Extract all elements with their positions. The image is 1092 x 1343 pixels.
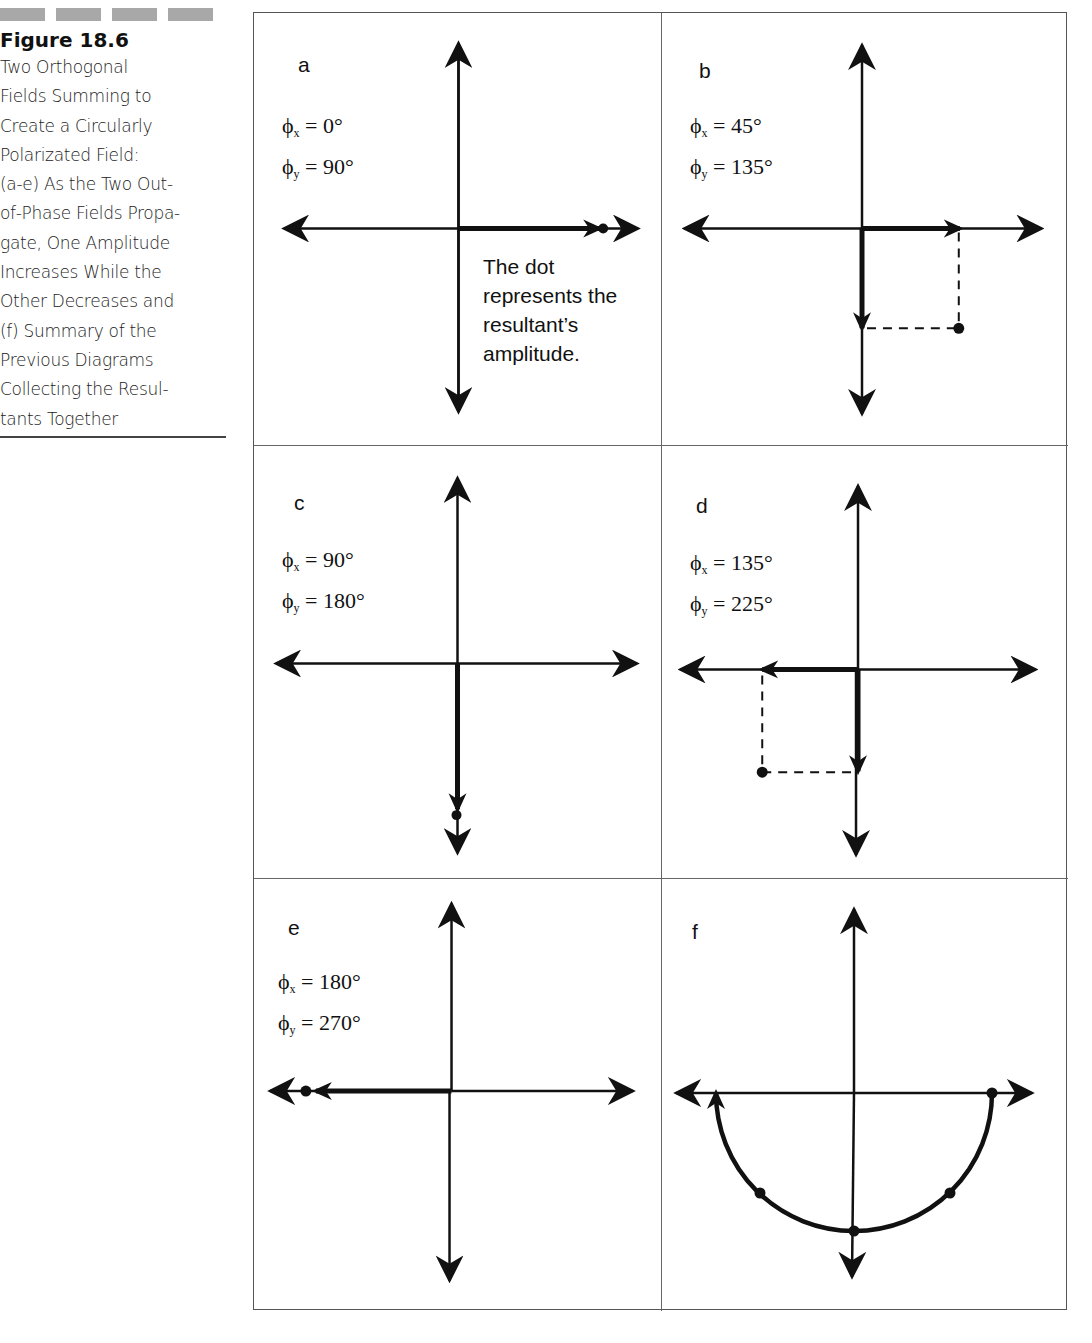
panel-label: e [288,916,300,940]
caption-decoration-bars [0,8,226,21]
caption-line: Fields Summing to [0,82,226,111]
phase-x: ϕx = 0° [282,109,354,150]
axes-diagram-b [662,13,1068,445]
axes-diagram-e [254,879,661,1311]
axes-diagram-a [254,13,661,445]
caption-line: Polarizated Field: [0,141,226,170]
caption-line: tants Together [0,405,226,434]
caption-line: Create a Circularly [0,112,226,141]
caption-line: Previous Diagrams [0,346,226,375]
dot-explanation-note: The dot represents the resultant’s ampli… [483,252,663,368]
panel-label: f [692,920,698,944]
caption-line: gate, One Amplitude [0,229,226,258]
panel-e: e ϕx = 180° ϕy = 270° [254,879,662,1311]
panel-b: b ϕx = 45° ϕy = 135° [662,13,1068,446]
resultant-dot [300,1086,311,1097]
decor-bar [56,8,101,21]
phase-x: ϕx = 135° [690,546,773,587]
panel-label: b [699,59,711,83]
panel-d: d ϕx = 135° ϕy = 225° [662,446,1068,879]
resultant-dot [953,323,964,334]
resultant-dot [945,1188,956,1199]
panel-f: f [662,879,1068,1311]
resultant-dot [452,810,462,820]
axes-diagram-d [662,446,1068,878]
phase-y: ϕy = 270° [278,1006,361,1047]
phase-y: ϕy = 225° [690,587,773,628]
phase-values: ϕx = 90° ϕy = 180° [282,543,365,625]
caption-rule [0,436,226,438]
phase-x: ϕx = 45° [690,109,773,150]
phase-values: ϕx = 135° ϕy = 225° [690,546,773,628]
phase-values: ϕx = 45° ϕy = 135° [690,109,773,191]
caption-line: Other Decreases and [0,287,226,316]
caption-line: Increases While the [0,258,226,287]
panel-label: a [298,53,310,77]
resultant-dot [987,1088,998,1099]
summary-diagram-f [662,879,1068,1311]
phase-values: ϕx = 180° ϕy = 270° [278,965,361,1047]
phase-x: ϕx = 180° [278,965,361,1006]
resultant-dot [757,767,768,778]
caption-line: Collecting the Resul- [0,375,226,404]
caption-line: (a-e) As the Two Out- [0,170,226,199]
axes-diagram-c [254,446,661,878]
decor-bar [168,8,213,21]
caption-line: (f) Summary of the [0,317,226,346]
phase-y: ϕy = 135° [690,150,773,191]
figure-number: Figure 18.6 [0,27,226,53]
phase-y: ϕy = 90° [282,150,354,191]
caption-line: of-Phase Fields Propa- [0,199,226,228]
resultant-dot [849,1226,860,1237]
panel-a: a ϕx = 0° ϕy = 90° The dot represents th… [254,13,662,446]
decor-bar [112,8,157,21]
resultant-dot [755,1188,766,1199]
panel-label: d [696,494,708,518]
resultant-dot [598,224,608,234]
phase-x: ϕx = 90° [282,543,365,584]
figure-caption: Figure 18.6 Two Orthogonal Fields Summin… [0,8,226,438]
phase-values: ϕx = 0° ϕy = 90° [282,109,354,191]
decor-bar [0,8,45,21]
panel-c: c ϕx = 90° ϕy = 180° [254,446,662,879]
panel-label: c [294,491,305,515]
caption-line: Two Orthogonal [0,53,226,82]
phase-y: ϕy = 180° [282,584,365,625]
figure-grid: a ϕx = 0° ϕy = 90° The dot represents th… [253,12,1067,1310]
caption-text: Two Orthogonal Fields Summing to Create … [0,53,226,434]
